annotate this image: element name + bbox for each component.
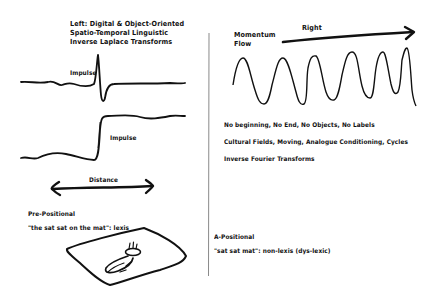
prepositional-title: Pre-Positional [28, 210, 75, 218]
impulse-waveform-icon [21, 55, 185, 101]
statement-2: Cultural Fields, Moving, Analogue Condit… [224, 138, 408, 146]
momentum-label-line-1: Momentum [234, 31, 276, 40]
step-waveform-icon [21, 115, 185, 160]
apositional-title: A-Positional [214, 233, 254, 241]
left-heading-line-2: Spatio-Temporal Linguistic [70, 29, 168, 38]
center-divider [209, 33, 210, 276]
statement-1: No beginning, No End, No Objects, No Lab… [224, 121, 375, 129]
left-heading-line-1: Left: Digital & Object-Oriented [70, 20, 184, 29]
impulse-label-2: Impulse [110, 134, 136, 142]
momentum-label-line-2: Flow [234, 40, 251, 49]
apositional-example: "sat sat mat": non-lexis (dys-lexic) [214, 247, 331, 255]
prepositional-example: "the sat sat on the mat": lexis [28, 224, 129, 232]
sine-wave-icon [233, 48, 416, 106]
cat-on-mat-icon [67, 228, 186, 285]
diagram-drawings [0, 0, 433, 302]
statement-3: Inverse Fourier Transforms [224, 155, 315, 163]
impulse-label-1: Impulse [70, 69, 96, 77]
right-label: Right [302, 24, 322, 33]
distance-label: Distance [89, 176, 118, 184]
left-heading-line-3: Inverse Laplace Transforms [70, 38, 172, 47]
